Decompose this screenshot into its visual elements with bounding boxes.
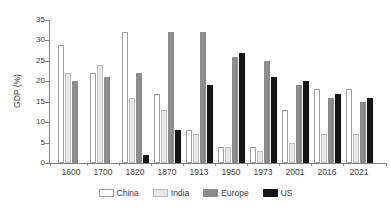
y-tick-label: 5 [0, 138, 45, 148]
bar-china-2016 [314, 89, 320, 163]
x-tick-mark [343, 163, 344, 166]
x-tick-mark [215, 163, 216, 166]
x-tick-mark [279, 163, 280, 166]
gdp-bar-chart: GDP (%) 05101520253035 16001700182018701… [0, 0, 391, 210]
bar-us-1913 [207, 85, 213, 163]
legend-label-india: India [171, 188, 189, 198]
legend-swatch-india [153, 189, 168, 197]
bar-india-2021 [353, 134, 359, 163]
legend-item: Europe [203, 188, 248, 198]
x-tick-label: 1973 [254, 167, 273, 177]
bar-us-1950 [239, 53, 245, 163]
x-tick-mark [151, 163, 152, 166]
x-tick-mark [183, 163, 184, 166]
bar-india-1820 [129, 98, 135, 163]
bar-india-1600 [65, 73, 71, 163]
y-tick-mark [45, 122, 49, 123]
bar-us-2021 [367, 98, 373, 163]
bar-china-1700 [90, 73, 96, 163]
x-tick-label: 2001 [286, 167, 305, 177]
y-tick-label: 30 [0, 35, 45, 45]
y-tick-label: 20 [0, 76, 45, 86]
legend-label-us: US [281, 188, 293, 198]
y-tick-mark [45, 81, 49, 82]
y-tick-label: 0 [0, 158, 45, 168]
y-tick-mark [45, 20, 49, 21]
legend-item: China [99, 188, 139, 198]
x-tick-mark [50, 163, 51, 166]
bar-china-1820 [122, 32, 128, 163]
plot-area: 1600170018201870191319501973200120162021 [49, 20, 386, 164]
bar-india-1870 [161, 110, 167, 163]
x-tick-label: 1700 [94, 167, 113, 177]
y-tick-label: 25 [0, 56, 45, 66]
bar-europe-1950 [232, 57, 238, 163]
legend-swatch-china [99, 189, 114, 197]
y-tick-mark [45, 61, 49, 62]
bar-europe-1700 [104, 77, 110, 163]
legend-label-china: China [117, 188, 139, 198]
bar-india-1913 [193, 134, 199, 163]
bar-us-1973 [271, 77, 277, 163]
y-tick-label: 35 [0, 15, 45, 25]
bar-china-1913 [186, 130, 192, 163]
legend-swatch-europe [203, 189, 218, 197]
bar-china-1950 [218, 147, 224, 163]
bar-india-1973 [257, 151, 263, 163]
x-tick-label: 2021 [350, 167, 369, 177]
bar-europe-1600 [72, 81, 78, 163]
y-tick-mark [45, 143, 49, 144]
bar-china-1600 [58, 45, 64, 163]
bar-europe-1870 [168, 32, 174, 163]
legend-swatch-us [263, 189, 278, 197]
x-tick-mark [87, 163, 88, 166]
bar-india-2016 [321, 134, 327, 163]
y-tick-mark [45, 40, 49, 41]
bar-europe-1973 [264, 61, 270, 163]
x-tick-label: 1950 [222, 167, 241, 177]
y-axis-tick-labels: 05101520253035 [0, 20, 45, 163]
legend-item: India [153, 188, 189, 198]
y-tick-label: 15 [0, 97, 45, 107]
bar-europe-2021 [360, 102, 366, 163]
x-tick-label: 1820 [126, 167, 145, 177]
bar-india-2001 [289, 143, 295, 163]
y-tick-mark [45, 163, 49, 164]
bar-china-2021 [346, 89, 352, 163]
x-tick-label: 1600 [62, 167, 81, 177]
bar-us-2016 [335, 94, 341, 163]
legend-label-europe: Europe [221, 188, 248, 198]
x-tick-label: 1870 [158, 167, 177, 177]
x-tick-mark [311, 163, 312, 166]
x-tick-mark [247, 163, 248, 166]
bar-us-2001 [303, 81, 309, 163]
x-tick-mark [119, 163, 120, 166]
bar-india-1950 [225, 147, 231, 163]
bar-europe-2016 [328, 98, 334, 163]
bar-us-1870 [175, 130, 181, 163]
y-tick-label: 10 [0, 117, 45, 127]
bar-china-2001 [282, 110, 288, 163]
legend: China India Europe US [0, 188, 391, 198]
x-tick-label: 2016 [318, 167, 337, 177]
x-tick-mark [386, 163, 387, 166]
legend-item: US [263, 188, 293, 198]
bar-europe-1913 [200, 32, 206, 163]
bar-china-1870 [154, 94, 160, 163]
y-tick-mark [45, 102, 49, 103]
bar-europe-2001 [296, 85, 302, 163]
bar-us-1820 [143, 155, 149, 163]
x-tick-label: 1913 [190, 167, 209, 177]
bar-china-1973 [250, 147, 256, 163]
bar-europe-1820 [136, 73, 142, 163]
bar-india-1700 [97, 65, 103, 163]
